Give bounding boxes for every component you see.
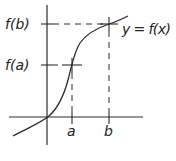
fa-label: f(a) bbox=[5, 57, 29, 73]
curve-label: y = f(x) bbox=[121, 21, 170, 37]
a-label: a bbox=[67, 123, 76, 139]
function-curve bbox=[13, 16, 128, 136]
function-diagram: f(b) f(a) y = f(x) a b bbox=[0, 0, 176, 161]
b-label: b bbox=[104, 123, 113, 139]
fb-label: f(b) bbox=[5, 16, 30, 32]
